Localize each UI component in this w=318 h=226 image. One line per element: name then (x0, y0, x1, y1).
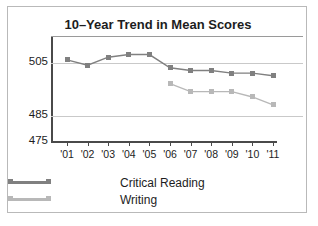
legend-marker-icon (46, 196, 51, 201)
chart-legend: Critical ReadingWriting (8, 175, 307, 209)
marker-critical-reading-02 (85, 63, 90, 68)
marker-critical-reading-03 (106, 55, 111, 60)
legend-label: Writing (120, 192, 307, 208)
legend-swatch-icon (8, 198, 51, 201)
marker-critical-reading-04 (126, 52, 131, 57)
y-tick-label-475: 475 (8, 134, 48, 146)
marker-writing-06 (168, 81, 173, 86)
chart-figure: 10–Year Trend in Mean Scores 475485505 '… (7, 6, 307, 213)
x-tick-label-11: '11 (260, 148, 286, 160)
marker-critical-reading-05 (147, 52, 152, 57)
legend-item[interactable]: Writing (8, 192, 307, 209)
marker-critical-reading-01 (65, 57, 70, 62)
marker-writing-11 (271, 102, 276, 107)
chart-title: 10–Year Trend in Mean Scores (8, 17, 307, 32)
plot-area: '01'02'03'04'05'06'07'08'09'10'11 (51, 36, 277, 142)
marker-writing-10 (250, 94, 255, 99)
marker-critical-reading-10 (250, 71, 255, 76)
series-lines (51, 36, 277, 142)
marker-critical-reading-08 (209, 68, 214, 73)
line-writing (170, 84, 273, 105)
y-tick-label-485: 485 (8, 108, 48, 120)
y-axis-labels: 475485505 (8, 36, 48, 146)
marker-critical-reading-09 (229, 71, 234, 76)
marker-writing-08 (209, 89, 214, 94)
legend-marker-icon (8, 179, 13, 184)
marker-critical-reading-06 (168, 65, 173, 70)
legend-label: Critical Reading (120, 175, 307, 191)
legend-marker-icon (46, 179, 51, 184)
marker-critical-reading-07 (188, 68, 193, 73)
legend-swatch-icon (8, 181, 51, 184)
marker-writing-09 (229, 89, 234, 94)
legend-marker-icon (8, 196, 13, 201)
y-tick-label-505: 505 (8, 55, 48, 67)
legend-item[interactable]: Critical Reading (8, 175, 307, 192)
marker-writing-07 (188, 89, 193, 94)
marker-critical-reading-11 (271, 73, 276, 78)
